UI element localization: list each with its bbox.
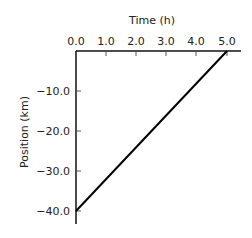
x-tick-label: 0.0: [67, 35, 85, 48]
y-tick-label: −40.0: [36, 205, 70, 218]
y-tick-label: −20.0: [36, 125, 70, 138]
y-tick-label: −10.0: [36, 85, 70, 98]
position-line: [76, 51, 227, 211]
x-tick-label: 4.0: [187, 35, 205, 48]
position-time-chart: Time (h) Position (km) 0.0 1.0 2.0 3.0 4…: [0, 0, 252, 238]
x-tick-label: 3.0: [157, 35, 175, 48]
y-tick-label: −30.0: [36, 165, 70, 178]
x-axis-title: Time (h): [128, 14, 175, 27]
x-tick-label: 2.0: [127, 35, 145, 48]
y-axis-title: Position (km): [18, 96, 31, 168]
x-tick-label: 1.0: [97, 35, 115, 48]
x-tick-label: 5.0: [218, 35, 236, 48]
